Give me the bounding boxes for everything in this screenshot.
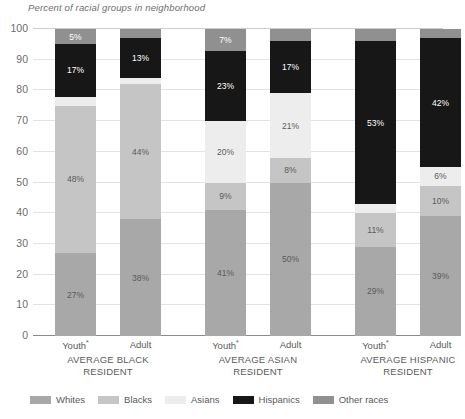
bar-segment[interactable]: 29% bbox=[355, 247, 396, 336]
x-axis-group-label-line: RESIDENT bbox=[188, 366, 328, 378]
bar-segment-value-label: 11% bbox=[355, 226, 396, 235]
bar-segment[interactable] bbox=[55, 97, 96, 106]
bar-segment[interactable]: 11% bbox=[355, 213, 396, 247]
bar-segment[interactable] bbox=[355, 29, 396, 41]
bar-segment-value-label: 44% bbox=[120, 148, 161, 157]
bar-segment[interactable] bbox=[420, 29, 461, 38]
bar-segment-value-label: 6% bbox=[420, 172, 461, 181]
bar-segment[interactable]: 41% bbox=[205, 210, 246, 336]
bar-segment-value-label: 23% bbox=[205, 82, 246, 91]
bar-segment[interactable]: 9% bbox=[205, 183, 246, 211]
bar-segment-value-label: 41% bbox=[205, 269, 246, 278]
plot-area: 0102030405060708090100 27%48%17%5%38%44%… bbox=[33, 29, 443, 336]
bar-segment[interactable] bbox=[355, 204, 396, 213]
bar-segment[interactable]: 20% bbox=[205, 121, 246, 182]
chart-title: Percent of racial groups in neighborhood bbox=[28, 2, 205, 13]
legend-label: Asians bbox=[191, 394, 220, 405]
bar-segment[interactable]: 6% bbox=[420, 167, 461, 185]
bar-segment[interactable]: 7% bbox=[205, 29, 246, 50]
legend-swatch bbox=[233, 396, 254, 404]
bar-segment-value-label: 7% bbox=[205, 36, 246, 45]
bar-stack[interactable]: 38%44%13% bbox=[120, 29, 161, 336]
x-axis-tick-label: Youth* bbox=[205, 339, 246, 351]
bar-segment-value-label: 17% bbox=[55, 66, 96, 75]
legend-swatch bbox=[98, 396, 119, 404]
y-axis-tick-label: 80 bbox=[16, 83, 28, 95]
legend-item[interactable]: Hispanics bbox=[233, 394, 300, 405]
y-axis-tick-label: 100 bbox=[10, 22, 28, 34]
footnote-marker: * bbox=[386, 339, 389, 346]
bar-segment[interactable]: 27% bbox=[55, 253, 96, 336]
bar-stack[interactable]: 29%11%53% bbox=[355, 29, 396, 336]
bar-segment[interactable] bbox=[120, 78, 161, 84]
bar-segment[interactable]: 39% bbox=[420, 216, 461, 336]
bar-segment[interactable]: 13% bbox=[120, 38, 161, 78]
bar-segment-value-label: 8% bbox=[270, 166, 311, 175]
bar-segment[interactable] bbox=[120, 29, 161, 38]
x-axis-group-label-line: RESIDENT bbox=[38, 366, 178, 378]
bar-segment[interactable]: 50% bbox=[270, 183, 311, 337]
footnote-marker: * bbox=[236, 339, 239, 346]
x-axis-tick-label: Adult bbox=[420, 339, 461, 350]
bar-segment[interactable]: 10% bbox=[420, 186, 461, 217]
legend-label: Whites bbox=[56, 394, 85, 405]
x-axis-tick-label: Adult bbox=[120, 339, 161, 350]
legend-label: Other races bbox=[339, 394, 389, 405]
legend-item[interactable]: Other races bbox=[313, 394, 389, 405]
bar-segment[interactable]: 53% bbox=[355, 41, 396, 204]
legend-label: Blacks bbox=[124, 394, 152, 405]
bar-segment[interactable]: 48% bbox=[55, 106, 96, 253]
bar-segment[interactable]: 8% bbox=[270, 158, 311, 183]
y-axis-tick-label: 20 bbox=[16, 268, 28, 280]
bar-segment-value-label: 20% bbox=[205, 148, 246, 157]
bar-segment-value-label: 50% bbox=[270, 255, 311, 264]
bar-segment[interactable]: 23% bbox=[205, 51, 246, 122]
y-axis-tick-label: 30 bbox=[16, 237, 28, 249]
bar-segment[interactable]: 44% bbox=[120, 84, 161, 219]
bar-segment[interactable]: 38% bbox=[120, 219, 161, 336]
x-axis-group-label-line: AVERAGE HISPANIC bbox=[338, 354, 465, 366]
bar-segment[interactable]: 17% bbox=[270, 41, 311, 93]
legend-swatch bbox=[30, 396, 51, 404]
bar-stack[interactable]: 27%48%17%5% bbox=[55, 29, 96, 336]
legend-item[interactable]: Asians bbox=[165, 394, 220, 405]
bar-segment-value-label: 5% bbox=[55, 32, 96, 41]
legend-item[interactable]: Whites bbox=[30, 394, 85, 405]
y-axis-tick-label: 0 bbox=[22, 329, 28, 341]
x-axis-labels: Youth*AdultAVERAGE BLACKRESIDENTYouth*Ad… bbox=[33, 339, 443, 399]
y-axis-tick-label: 10 bbox=[16, 298, 28, 310]
x-axis-group-label-line: AVERAGE BLACK bbox=[38, 354, 178, 366]
legend-label: Hispanics bbox=[259, 394, 300, 405]
bar-segment-value-label: 9% bbox=[205, 192, 246, 201]
y-axis-tick-label: 50 bbox=[16, 176, 28, 188]
bar-segment[interactable]: 17% bbox=[55, 44, 96, 96]
x-axis-tick-label: Youth* bbox=[55, 339, 96, 351]
x-axis-tick-label: Youth* bbox=[355, 339, 396, 351]
bar-stack[interactable]: 41%9%20%23%7% bbox=[205, 29, 246, 336]
bar-stack[interactable]: 39%10%6%42% bbox=[420, 29, 461, 336]
y-axis-tick-label: 40 bbox=[16, 206, 28, 218]
bar-segment[interactable]: 5% bbox=[55, 29, 96, 44]
bar-segment-value-label: 48% bbox=[55, 175, 96, 184]
bar-segment[interactable]: 42% bbox=[420, 38, 461, 167]
legend-swatch bbox=[313, 396, 334, 404]
bar-segment-value-label: 10% bbox=[420, 197, 461, 206]
chart-legend: WhitesBlacksAsiansHispanicsOther races bbox=[30, 394, 401, 405]
bar-segment-value-label: 29% bbox=[355, 287, 396, 296]
x-axis-group-label: AVERAGE HISPANICRESIDENT bbox=[338, 354, 465, 377]
y-axis-tick-label: 60 bbox=[16, 145, 28, 157]
bar-segment-value-label: 53% bbox=[355, 118, 396, 127]
legend-item[interactable]: Blacks bbox=[98, 394, 152, 405]
bar-stack[interactable]: 50%8%21%17% bbox=[270, 29, 311, 336]
x-axis-group-label: AVERAGE BLACKRESIDENT bbox=[38, 354, 178, 377]
bar-segment-value-label: 21% bbox=[270, 121, 311, 130]
bar-segment[interactable] bbox=[270, 29, 311, 41]
bar-segment-value-label: 13% bbox=[120, 54, 161, 63]
x-axis-tick-label: Adult bbox=[270, 339, 311, 350]
legend-swatch bbox=[165, 396, 186, 404]
x-axis-group-label-line: AVERAGE ASIAN bbox=[188, 354, 328, 366]
bar-segment[interactable]: 21% bbox=[270, 93, 311, 157]
bar-segment-value-label: 39% bbox=[420, 272, 461, 281]
bar-segment-value-label: 27% bbox=[55, 290, 96, 299]
